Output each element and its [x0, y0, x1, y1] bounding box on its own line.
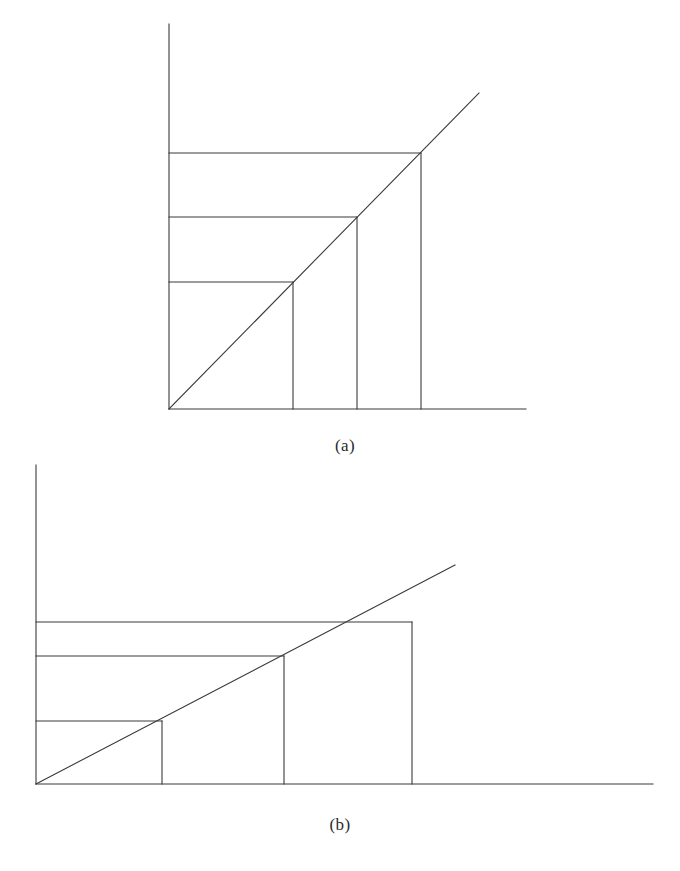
panel-b-group — [36, 465, 653, 784]
panel-a-diagonal-line — [169, 93, 479, 409]
panel-a-caption: (a) — [0, 436, 680, 456]
panel-b-diagonal-line — [36, 565, 455, 784]
panel-a-group — [169, 24, 526, 409]
figure-container: (a) (b) — [0, 0, 680, 871]
panel-b-caption: (b) — [0, 815, 680, 835]
